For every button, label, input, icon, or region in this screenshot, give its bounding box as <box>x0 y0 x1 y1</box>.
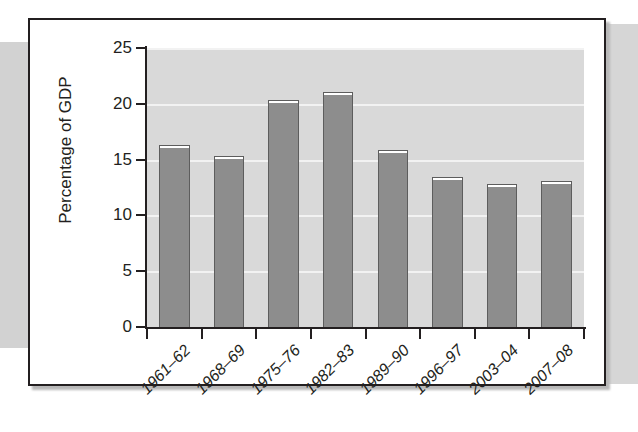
x-axis-tick-label: 2003–04 <box>461 342 522 403</box>
plot-area <box>147 48 584 327</box>
x-axis-tick <box>528 329 530 339</box>
y-axis-tick <box>136 214 146 216</box>
y-axis-tick-label-wrap: 15 <box>88 151 132 169</box>
y-axis-tick-label: 5 <box>96 262 132 279</box>
y-axis-tick <box>136 103 146 105</box>
y-axis-tick-label: 0 <box>96 318 132 335</box>
y-axis-tick <box>136 270 146 272</box>
bar-1975–76 <box>268 100 299 327</box>
bar-1996–97 <box>432 177 463 327</box>
y-axis-tick-label-wrap: 5 <box>88 262 132 280</box>
plot-wrapper: Percentage of GDP 0510152025 1961–621968… <box>30 20 604 384</box>
x-axis-tick <box>310 329 312 339</box>
x-axis-tick <box>255 329 257 339</box>
gridline <box>147 104 584 106</box>
x-axis-tick-label: 1996–97 <box>406 342 467 403</box>
x-axis-tick-label: 1975–76 <box>242 342 303 403</box>
gridline <box>147 48 584 50</box>
y-axis-line <box>145 46 147 329</box>
y-axis-tick-label: 20 <box>96 95 132 112</box>
y-axis-tick-label-wrap: 20 <box>88 95 132 113</box>
gridline <box>147 160 584 162</box>
x-axis-tick <box>583 329 585 339</box>
x-axis-tick <box>146 329 148 339</box>
gridline <box>147 215 584 217</box>
y-axis-tick-label-wrap: 0 <box>88 318 132 336</box>
chart-figure-frame: Percentage of GDP 0510152025 1961–621968… <box>28 18 606 386</box>
y-axis-tick <box>136 326 146 328</box>
bar-2003–04 <box>487 184 518 327</box>
x-axis-tick <box>365 329 367 339</box>
bar-1982–83 <box>323 92 354 327</box>
x-axis-tick <box>474 329 476 339</box>
y-axis-title: Percentage of GDP <box>56 50 76 250</box>
x-axis-tick <box>201 329 203 339</box>
y-axis-tick-label: 15 <box>96 151 132 168</box>
x-axis-tick-label: 1982–83 <box>297 342 358 403</box>
y-axis-tick <box>136 47 146 49</box>
x-axis-tick-label: 2007–08 <box>515 342 576 403</box>
y-axis-tick-label: 25 <box>96 39 132 56</box>
y-axis-tick-label-wrap: 10 <box>88 206 132 224</box>
x-axis-tick-label: 1961–62 <box>133 342 194 403</box>
y-axis-tick <box>136 159 146 161</box>
bar-1961–62 <box>159 145 190 327</box>
x-axis-tick-label: 1989–90 <box>351 342 412 403</box>
x-axis-tick <box>419 329 421 339</box>
y-axis-tick-label: 10 <box>96 206 132 223</box>
y-axis-tick-label-wrap: 25 <box>88 39 132 57</box>
chart-screenshot: Percentage of GDP 0510152025 1961–621968… <box>0 0 638 432</box>
x-axis-tick-label: 1968–69 <box>187 342 248 403</box>
bar-1989–90 <box>378 150 409 327</box>
scan-band-right <box>606 24 638 384</box>
gridline <box>147 271 584 273</box>
bar-1968–69 <box>214 156 245 327</box>
bar-2007–08 <box>541 181 572 327</box>
